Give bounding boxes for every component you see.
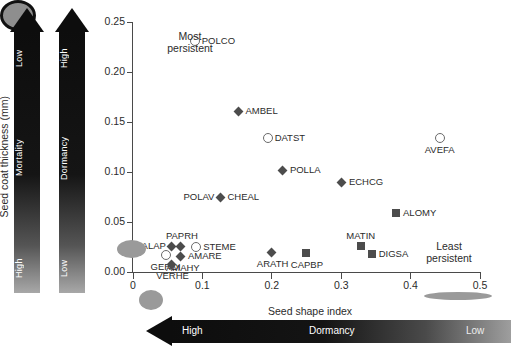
y-tick-label: 0.00: [85, 265, 125, 277]
point-label-amare: AMARE: [188, 250, 222, 261]
scatter-point-paprh[interactable]: [176, 241, 186, 251]
mortality-title: Mortality: [14, 128, 40, 188]
most-persistent-line2: persistent: [150, 42, 230, 54]
y-tick-label: 0.15: [85, 115, 125, 127]
scatter-point-amare[interactable]: [176, 251, 186, 261]
least-persistent-annotation: Least persistent: [409, 240, 489, 264]
x-tick-label: 0.3: [321, 279, 361, 291]
point-label-ambel: AMBEL: [245, 105, 277, 116]
point-label-verhe: VERHE: [156, 270, 189, 281]
y-axis-label: Seed coat thickness (mm): [0, 96, 10, 217]
figure-canvas: Low Mortality High High Dormancy Low 0.2…: [0, 0, 511, 353]
point-label-digsa: DIGSA: [379, 248, 409, 259]
y-tick: [127, 72, 133, 73]
y-tick-label: 0.10: [85, 165, 125, 177]
point-label-echcg: ECHCG: [349, 176, 383, 187]
mortality-bottom-label: High: [14, 248, 40, 288]
y-tick-label: 0.05: [85, 215, 125, 227]
x-tick-label: 0: [113, 279, 153, 291]
y-tick-label: 0.25: [85, 15, 125, 27]
scatter-point-capbp[interactable]: [302, 249, 310, 257]
y-tick-label: 0.20: [85, 65, 125, 77]
y-tick: [127, 122, 133, 123]
scatter-point-datst[interactable]: [263, 133, 273, 143]
mortality-arrow-head: [10, 8, 44, 32]
point-label-cheal: CHEAL: [227, 191, 259, 202]
seed-flat-right-icon: [424, 292, 492, 300]
scatter-point-digsa[interactable]: [368, 250, 376, 258]
x-tick-label: 0.4: [391, 279, 431, 291]
y-tick: [127, 172, 133, 173]
x-tick-label: 0.5: [460, 279, 500, 291]
x-axis-label: Seed shape index: [268, 305, 352, 317]
point-label-alomy: ALOMY: [403, 207, 436, 218]
seed-oval-left-icon: [117, 240, 146, 258]
scatter-point-polla[interactable]: [278, 165, 288, 175]
scatter-point-matin[interactable]: [357, 242, 365, 250]
point-label-polla: POLLA: [290, 164, 321, 175]
point-label-matin: MATIN: [346, 230, 375, 241]
scatter-point-gerdi[interactable]: [161, 250, 171, 260]
mortality-top-label: Low: [14, 38, 40, 78]
y-tick: [127, 22, 133, 23]
dormancy-horizontal-arrow: High Dormancy Low: [146, 320, 511, 343]
least-persistent-line1: Least: [409, 240, 489, 252]
dormancy-vertical-arrow-head: [55, 8, 89, 32]
y-tick: [127, 222, 133, 223]
scatter-point-ambel[interactable]: [234, 106, 244, 116]
dormancy-vertical-top-label: High: [59, 38, 85, 78]
seed-oval-bottom-icon: [139, 290, 163, 310]
point-label-polav: POLAV: [183, 191, 214, 202]
dormancy-horizontal-right-label: Low: [466, 325, 484, 336]
scatter-point-echcg[interactable]: [337, 177, 347, 187]
scatter-point-alomy[interactable]: [392, 209, 400, 217]
point-label-avefa: AVEFA: [425, 144, 455, 155]
point-label-arath: ARATH: [257, 258, 289, 269]
least-persistent-line2: persistent: [409, 252, 489, 264]
dormancy-vertical-arrow: High Dormancy Low: [59, 8, 85, 293]
most-persistent-annotation: Most persistent: [150, 30, 230, 54]
dormancy-vertical-bottom-label: Low: [59, 248, 85, 288]
dormancy-horizontal-arrow-head: [146, 316, 172, 346]
scatter-point-avefa[interactable]: [435, 133, 445, 143]
point-label-datst: DATST: [275, 132, 305, 143]
x-tick-label: 0.2: [252, 279, 292, 291]
scatter-point-cheal[interactable]: [215, 192, 225, 202]
most-persistent-line1: Most: [150, 30, 230, 42]
y-axis-line: [132, 22, 133, 273]
dormancy-vertical-title: Dormancy: [59, 126, 85, 190]
mortality-arrow: Low Mortality High: [14, 8, 40, 293]
dormancy-horizontal-title: Dormancy: [309, 325, 355, 336]
point-label-paprh: PAPRH: [166, 230, 198, 241]
point-label-capbp: CAPBP: [291, 259, 323, 270]
dormancy-horizontal-left-label: High: [182, 325, 203, 336]
scatter-point-arath[interactable]: [267, 247, 277, 257]
